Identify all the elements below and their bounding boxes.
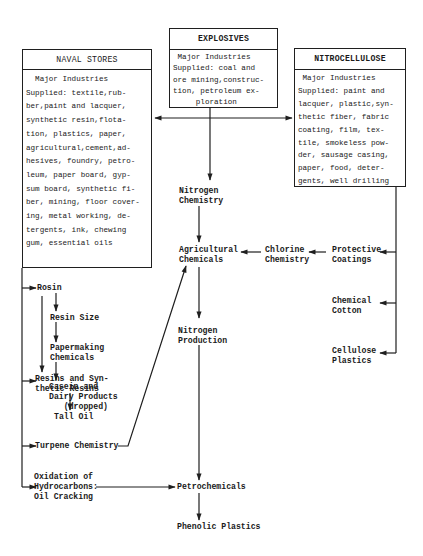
node-agricultural-chemicals: Agricultural Chemicals [179,245,238,265]
node-cellulose-plastics: Cellulose Plastics [332,346,376,366]
naval-stores-box: NAVAL STORES Major Industries Supplied: … [22,49,152,268]
node-protective-coatings: Protective Coatings [332,245,381,265]
nitrocellulose-industries: Major Industries Supplied: paint and lac… [295,70,405,188]
explosives-box: EXPLOSIVES Major Industries Supplied: co… [169,28,278,108]
node-oxidation-hydrocarbons: Oxidation of Hydrocarbons: Oil Cracking [34,472,98,502]
nitrocellulose-box: NITROCELLULOSE Major Industries Supplied… [294,48,406,187]
node-nitrogen-production: Nitrogen Production [178,326,227,346]
nitrocellulose-title: NITROCELLULOSE [295,49,405,70]
node-resins-synthetic: Resins and Syn- thetic Resins [35,374,109,394]
node-papermaking-chemicals: Papermaking Chemicals [50,343,104,363]
node-nitrogen-chemistry: Nitrogen Chemistry [179,186,223,206]
node-rosin: Rosin [37,283,62,293]
node-petrochemicals: Petrochemicals [177,482,246,492]
node-phenolic-plastics: Phenolic Plastics [177,522,261,532]
naval-stores-industries: Major Industries Supplied: textile,rub- … [23,70,151,253]
node-chemical-cotton: Chemical Cotton [332,296,371,316]
node-turpene-chemistry: Turpene Chemistry [35,441,119,451]
node-resin-size: Resin Size [50,313,99,323]
node-chlorine-chemistry: Chlorine Chemistry [265,245,309,265]
node-tall-oil: Tall Oil [54,412,93,422]
naval-stores-title: NAVAL STORES [23,50,151,70]
explosives-title: EXPLOSIVES [170,29,277,50]
explosives-industries: Major Industries Supplied: coal and ore … [170,50,277,108]
